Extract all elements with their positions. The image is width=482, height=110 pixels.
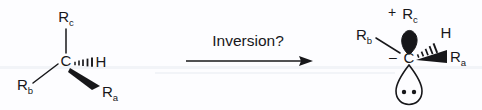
reactant-label-rc: Rc [58,8,74,28]
product-detached-group-rc: Rc [402,5,418,25]
scan-artifact-line [155,72,395,74]
product-lone-pair-dot [412,90,416,94]
product-formal-charge: – [389,49,397,65]
reactant-solid-wedge-to-ra [68,68,100,90]
product-detached-charge: + [388,4,396,20]
product-lower-orbital-lobe [396,65,422,105]
reactant-hashed-wedge-to-h [75,58,92,67]
product-center-atom: C [404,49,415,66]
reaction-arrow-group: Inversion? [186,32,313,66]
product-structure: + Rc Rb – C [356,4,467,105]
reactant-label-ra: Ra [102,83,119,103]
reactant-structure: Rc C Rb H [17,8,119,103]
product-lone-pair-dot [402,90,406,94]
reactant-label-h: H [96,53,107,70]
reactant-center-atom: C [61,52,72,69]
product-label-rb: Rb [356,26,372,46]
product-label-h: H [441,24,452,41]
reaction-condition-label: Inversion? [212,32,284,49]
reaction-arrow-head [299,56,313,66]
reaction-scheme-figure: Rc C Rb H [0,0,482,110]
reactant-label-rb: Rb [17,76,33,96]
product-label-ra: Ra [450,48,467,68]
